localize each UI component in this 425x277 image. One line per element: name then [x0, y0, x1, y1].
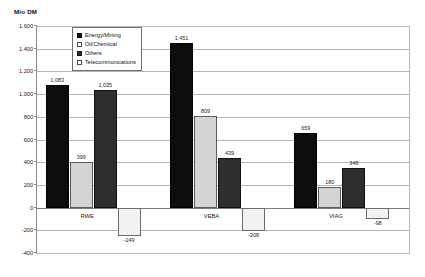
chart-legend: Energy/MiningOil/ChemicalOthersTelecommu…	[72, 27, 142, 71]
bar-value-label: 659	[301, 125, 310, 131]
bar	[94, 90, 117, 207]
y-axis-tick-label: -200	[22, 227, 33, 233]
bar-value-label: 180	[325, 179, 334, 185]
legend-item-label: Others	[85, 51, 102, 57]
y-axis-unit-caption: Mio DM	[14, 8, 37, 15]
bar	[218, 158, 241, 208]
y-axis-tick-mark	[34, 184, 37, 185]
x-axis-category-label: RWE	[80, 213, 93, 219]
bar-value-label: 399	[77, 154, 86, 160]
y-axis-tick-mark	[34, 70, 37, 71]
legend-item: Telecommunications	[77, 58, 136, 67]
bar-value-label: 1,451	[175, 35, 189, 41]
bar	[170, 43, 193, 208]
y-axis-tick-label: 400	[24, 159, 33, 165]
gridline	[37, 208, 410, 209]
bar	[294, 133, 317, 208]
legend-swatch-icon	[77, 51, 82, 56]
y-axis-tick-mark	[34, 161, 37, 162]
bar-value-label: -98	[374, 220, 382, 226]
bar-value-label: 809	[201, 108, 210, 114]
legend-swatch-icon	[77, 33, 82, 38]
legend-item: Oil/Chemical	[77, 40, 136, 49]
bar	[118, 208, 141, 236]
bar-value-label: -249	[124, 237, 135, 243]
legend-item-label: Oil/Chemical	[85, 42, 117, 48]
y-axis-tick-mark	[34, 116, 37, 117]
legend-item-label: Telecommunications	[85, 60, 136, 66]
bar	[366, 208, 389, 219]
y-axis-tick-label: 200	[24, 182, 33, 188]
legend-swatch-icon	[77, 60, 82, 65]
legend-swatch-icon	[77, 42, 82, 47]
bar	[46, 85, 69, 208]
x-axis-category-label: VEBA	[204, 213, 219, 219]
y-axis-tick-mark	[34, 48, 37, 49]
bar	[318, 187, 341, 207]
bar-chart: Mio DM 1.6001.4001.2001.0008006004002000…	[0, 0, 425, 277]
y-axis-tick-mark	[34, 252, 37, 253]
y-axis-tick-mark	[34, 93, 37, 94]
bar	[342, 168, 365, 207]
bar-value-label: -208	[248, 232, 259, 238]
y-axis-tick-label: 600	[24, 137, 33, 143]
gridline	[37, 230, 410, 231]
y-axis-tick-label: 1.000	[19, 91, 33, 97]
y-axis-tick-label: 0	[30, 205, 33, 211]
bar	[194, 116, 217, 208]
y-axis-tick-mark	[34, 207, 37, 208]
y-axis-tick-label: 1.200	[19, 68, 33, 74]
legend-item-label: Energy/Mining	[85, 33, 121, 39]
gridline	[37, 71, 410, 72]
bar	[242, 208, 265, 232]
y-axis-tick-label: 800	[24, 114, 33, 120]
gridline	[37, 253, 410, 254]
legend-item: Energy/Mining	[77, 31, 136, 40]
y-axis-tick-label: 1.600	[19, 23, 33, 29]
y-axis-tick-label: -400	[22, 250, 33, 256]
y-axis-tick-mark	[34, 229, 37, 230]
bar	[70, 162, 93, 207]
bar-value-label: 1,035	[98, 82, 112, 88]
y-axis-tick-mark	[34, 139, 37, 140]
y-axis-tick-mark	[34, 25, 37, 26]
legend-item: Others	[77, 49, 136, 58]
bar-value-label: 348	[349, 160, 358, 166]
y-axis-tick-label: 1.400	[19, 46, 33, 52]
x-axis-category-label: VIAG	[329, 213, 343, 219]
bar-value-label: 1,083	[50, 77, 64, 83]
bar-value-label: 439	[225, 150, 234, 156]
